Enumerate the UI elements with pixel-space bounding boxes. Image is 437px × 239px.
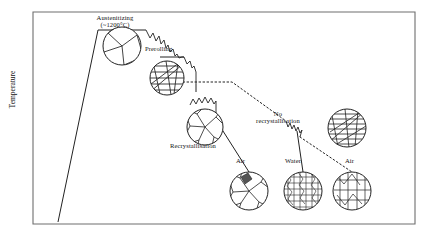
microstructure-austenitizing [103, 27, 141, 65]
label-cooling-air-1: Air [236, 157, 245, 164]
microstructure-air-cooled-2 [333, 172, 371, 210]
label-no-recrystallisation-line1: No [248, 110, 308, 117]
microstructure-air-cooled-1 [229, 170, 269, 212]
label-recrystallisation: Recrystallisation [170, 142, 216, 149]
figure-container: Temperature Austenitizing (~1200°C) Prer… [0, 0, 437, 239]
label-austenitizing-text: Austenitizing [86, 14, 144, 21]
microstructure-water-quenched [284, 169, 322, 212]
label-cooling-air-2: Air [345, 157, 354, 164]
microstructure-prerolling [148, 61, 186, 95]
y-axis-label: Temperature [8, 54, 17, 126]
label-austenitizing-temp: (~1200°C) [86, 21, 144, 28]
label-prerolling: Prerolling [145, 45, 172, 52]
label-cooling-water: Water [285, 157, 301, 164]
label-no-recrystallisation: No recrystallisation [248, 110, 308, 125]
microstructure-no-recrystallisation [327, 109, 367, 148]
label-austenitizing: Austenitizing (~1200°C) [86, 14, 144, 29]
process-schematic-svg [0, 0, 437, 239]
label-no-recrystallisation-line2: recrystallisation [248, 117, 308, 124]
